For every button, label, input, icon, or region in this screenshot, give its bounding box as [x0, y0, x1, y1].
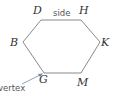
vertex-annotation: vertex [0, 83, 25, 93]
vertex-label-d: D [32, 4, 42, 17]
hexagon-shape [23, 20, 100, 73]
vertex-label-k: K [100, 36, 110, 49]
side-annotation: side [53, 8, 70, 18]
vertex-label-h: H [78, 4, 89, 17]
vertex-label-m: M [76, 76, 89, 89]
vertex-label-b: B [9, 36, 18, 49]
hexagon-diagram: D H K M G B side vertex [0, 0, 120, 95]
